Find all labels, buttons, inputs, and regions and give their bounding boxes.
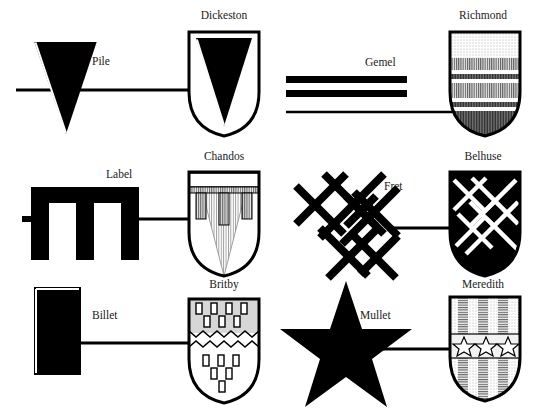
entry-gemel-richmond: Richmond Gemel bbox=[280, 0, 549, 140]
entry-graphic-fret-belhuse bbox=[280, 140, 549, 280]
entry-graphic-gemel-richmond bbox=[280, 0, 549, 140]
entry-mullet-meredith: Meredith Mullet bbox=[280, 271, 549, 411]
gemel-charge bbox=[286, 76, 407, 97]
label-charge bbox=[22, 187, 139, 260]
pile-charge bbox=[34, 41, 97, 134]
mullet-charge bbox=[280, 281, 412, 407]
entry-graphic-billet-britby bbox=[0, 271, 280, 411]
billet-charge bbox=[34, 287, 81, 375]
entry-graphic-pile-dickeston bbox=[0, 0, 280, 140]
entry-label-chandos: Chandos Label bbox=[0, 140, 280, 280]
shield-chandos bbox=[187, 170, 261, 280]
entry-pile-dickeston: Dickeston Pile bbox=[0, 0, 280, 140]
shield-belhuse bbox=[448, 170, 524, 280]
shield-meredith bbox=[448, 295, 526, 405]
shield-richmond bbox=[448, 30, 524, 139]
shield-britby bbox=[187, 297, 261, 407]
entry-graphic-label-chandos bbox=[0, 140, 280, 280]
entry-billet-britby: Britby Billet bbox=[0, 271, 280, 411]
shield-dickeston bbox=[189, 32, 259, 136]
entry-graphic-mullet-meredith bbox=[280, 271, 549, 411]
entry-fret-belhuse: Belhuse Fret bbox=[280, 140, 549, 280]
heraldry-plate: Dickeston Pile Richmond Gemel bbox=[0, 0, 549, 411]
fret-charge bbox=[296, 174, 398, 278]
